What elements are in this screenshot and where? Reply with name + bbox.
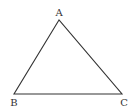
vertex-label-a: A — [54, 7, 63, 18]
triangle-abc — [14, 20, 122, 94]
vertex-label-c: C — [120, 97, 128, 108]
triangle-diagram: A B C — [0, 0, 135, 110]
vertex-label-b: B — [10, 97, 17, 108]
